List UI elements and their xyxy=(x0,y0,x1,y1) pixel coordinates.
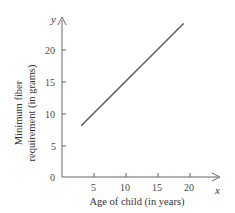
x-tick-label: 20 xyxy=(184,182,194,193)
chart: y x 0 5 10 15 20 5 10 15 20 Age of child… xyxy=(0,0,235,213)
x-tick-label: 5 xyxy=(91,182,96,193)
y-axis-label-line1: Minimum fiber xyxy=(13,80,24,145)
x-tick-label: 15 xyxy=(152,182,162,193)
x-ticks: 5 10 15 20 xyxy=(91,173,194,193)
y-tick-label: 5 xyxy=(51,141,56,152)
y-tick-label: 20 xyxy=(45,45,55,56)
y-axis-variable: y xyxy=(50,13,56,25)
data-line xyxy=(81,23,183,125)
x-axis-label: Age of child (in years) xyxy=(89,196,185,208)
y-axis-label-line2: requirement (in grams) xyxy=(26,64,38,161)
y-tick-label: 15 xyxy=(45,77,55,88)
y-tick-label: 10 xyxy=(45,109,55,120)
x-tick-label: 10 xyxy=(120,182,130,193)
x-axis-variable: x xyxy=(214,184,220,196)
y-ticks: 5 10 15 20 xyxy=(45,45,66,152)
origin-label: 0 xyxy=(50,172,55,183)
